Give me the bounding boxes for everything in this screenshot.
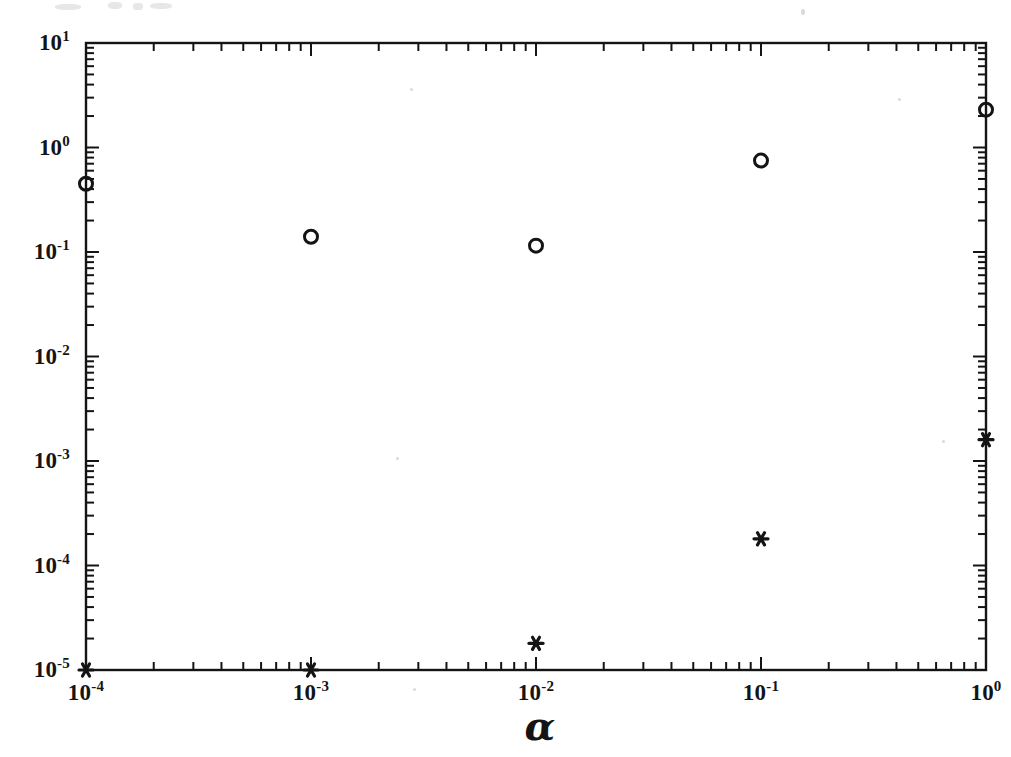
y-tick-label: 10-4	[34, 553, 70, 579]
y-tick-exponent: 1	[62, 28, 70, 44]
x-tick-exponent: -3	[316, 678, 329, 694]
y-tick-mantissa: 10	[34, 448, 57, 473]
x-tick-exponent: 0	[994, 678, 1002, 694]
x-tick-mantissa: 10	[743, 680, 766, 705]
x-tick-label: 10-3	[293, 680, 329, 706]
y-tick-label: 10-5	[34, 657, 70, 683]
x-tick-exponent: -2	[541, 678, 554, 694]
y-axis-ticks	[86, 43, 986, 670]
y-tick-label: 10-1	[34, 239, 70, 265]
x-tick-label: 10-1	[743, 680, 779, 706]
x-tick-mantissa: 10	[293, 680, 316, 705]
x-tick-label: 10-4	[68, 680, 104, 706]
y-tick-label: 101	[39, 30, 70, 56]
y-tick-exponent: 0	[62, 133, 70, 149]
y-tick-mantissa: 10	[39, 135, 62, 160]
y-tick-exponent: -3	[57, 446, 70, 462]
asterisk-series-markers	[79, 434, 993, 676]
plot-area	[0, 0, 1011, 757]
x-tick-mantissa: 10	[68, 680, 91, 705]
y-tick-label: 10-2	[34, 344, 70, 370]
y-tick-mantissa: 10	[34, 239, 57, 264]
x-tick-label: 100	[970, 680, 1001, 706]
y-tick-label: 100	[39, 135, 70, 161]
x-axis-ticks	[86, 43, 986, 670]
circle-series-markers	[80, 103, 993, 252]
y-tick-mantissa: 10	[34, 657, 57, 682]
y-tick-mantissa: 10	[39, 30, 62, 55]
x-tick-mantissa: 10	[970, 680, 993, 705]
y-tick-mantissa: 10	[34, 344, 57, 369]
figure-canvas: 10110010-110-210-310-410-5 10-410-310-21…	[0, 0, 1011, 757]
x-tick-exponent: -4	[91, 678, 104, 694]
x-axis-title: α	[525, 702, 556, 749]
x-tick-exponent: -1	[766, 678, 779, 694]
axes-frame	[86, 43, 986, 670]
y-tick-exponent: -5	[57, 655, 70, 671]
y-tick-label: 10-3	[34, 448, 70, 474]
y-tick-exponent: -2	[57, 342, 70, 358]
y-tick-exponent: -1	[57, 237, 70, 253]
y-tick-mantissa: 10	[34, 553, 57, 578]
y-tick-exponent: -4	[57, 551, 70, 567]
